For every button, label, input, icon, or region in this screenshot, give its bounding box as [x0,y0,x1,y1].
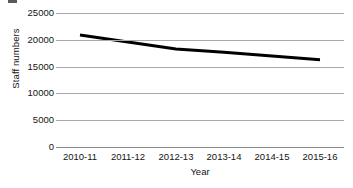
x-axis-tick-labels: 2010-112011-122012-132013-142014-152015-… [56,151,344,165]
y-tick-label-20000: 20000 [8,35,54,45]
x-tick-label-2015-16: 2015-16 [289,151,351,163]
gridline-5000 [56,120,344,121]
gridline-0 [56,147,344,148]
y-axis-tick-labels: 0500010000150002000025000 [8,0,54,188]
x-axis-title: Year [56,166,344,177]
line-chart: Staff numbers 0500010000150002000025000 … [0,0,353,188]
y-tick-label-5000: 5000 [8,115,54,125]
gridline-15000 [56,67,344,68]
y-tick-label-15000: 15000 [8,62,54,72]
gridline-25000 [56,13,344,14]
plot-area [56,13,344,147]
y-tick-label-0: 0 [8,142,54,152]
y-tick-label-25000: 25000 [8,8,54,18]
gridline-20000 [56,40,344,41]
series-line-staff-numbers [56,13,344,147]
gridline-10000 [56,93,344,94]
y-tick-label-10000: 10000 [8,88,54,98]
